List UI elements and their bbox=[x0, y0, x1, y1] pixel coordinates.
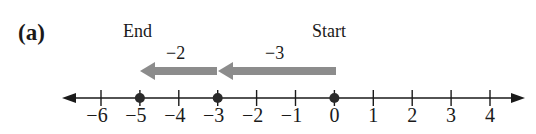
tick-label: 4 bbox=[485, 104, 495, 127]
point-marker--5 bbox=[135, 93, 145, 103]
tick-label: 2 bbox=[407, 104, 417, 127]
jump-arrow-minus-3 bbox=[218, 62, 336, 80]
tick-label: −5 bbox=[125, 104, 146, 127]
tick-label: −4 bbox=[164, 104, 185, 127]
jump-arrow-minus-2 bbox=[140, 62, 217, 80]
left-arrowhead-icon bbox=[62, 93, 76, 103]
tick-label: 1 bbox=[368, 104, 378, 127]
tick-label: −3 bbox=[203, 104, 224, 127]
tick-label: −6 bbox=[86, 104, 107, 127]
point-marker--3 bbox=[213, 93, 223, 103]
point-marker-0 bbox=[329, 93, 339, 103]
tick-label: 0 bbox=[329, 104, 339, 127]
tick-label: 3 bbox=[446, 104, 456, 127]
right-arrowhead-icon bbox=[511, 93, 525, 103]
tick-label: −2 bbox=[242, 104, 263, 127]
tick-label: −1 bbox=[281, 104, 302, 127]
